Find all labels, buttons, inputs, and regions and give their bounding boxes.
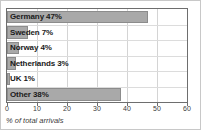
bar-label-germany: Germany 47% — [10, 11, 62, 23]
bar-row: Norway 4% — [7, 40, 187, 56]
x-tick-label: 20 — [63, 105, 71, 112]
bar-row: Other 38% — [7, 87, 187, 103]
bar-row: UK 1% — [7, 71, 187, 87]
x-tick-label: 10 — [33, 105, 41, 112]
bar-label-netherlands: Netherlands 3% — [10, 58, 69, 70]
bar-row: Sweden 7% — [7, 25, 187, 41]
x-tick-label: 0 — [5, 105, 9, 112]
x-axis-title: % of total arrivals — [6, 116, 64, 125]
bar-label-uk: UK 1% — [10, 73, 35, 85]
bar-row: Netherlands 3% — [7, 56, 187, 72]
x-tick-label: 60 — [183, 105, 191, 112]
x-axis: 0102030405060 — [6, 103, 188, 114]
bar-label-norway: Norway 4% — [10, 42, 52, 54]
bar-chart-figure: Germany 47%Sweden 7%Norway 4%Netherlands… — [0, 0, 201, 130]
x-tick-label: 40 — [123, 105, 131, 112]
x-tick-label: 30 — [93, 105, 101, 112]
bar-label-sweden: Sweden 7% — [10, 27, 53, 39]
plot-area: Germany 47%Sweden 7%Norway 4%Netherlands… — [6, 8, 188, 103]
x-tick-label: 50 — [153, 105, 161, 112]
bar-row: Germany 47% — [7, 9, 187, 25]
bar-label-other: Other 38% — [10, 89, 49, 101]
